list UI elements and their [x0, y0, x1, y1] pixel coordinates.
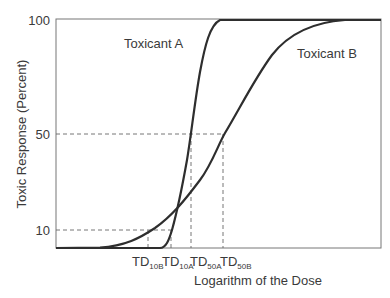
guide-lines	[56, 134, 223, 248]
y-axis-label: Toxic Response (Percent)	[14, 60, 29, 209]
td50b-main: TD	[220, 254, 237, 269]
td50a-label: TD50A	[190, 254, 222, 271]
td50a-main: TD	[190, 254, 207, 269]
y-tick-10: 10	[36, 223, 50, 238]
y-tick-50: 50	[36, 127, 50, 142]
y-tick-100: 100	[28, 13, 50, 28]
x-axis-label: Logarithm of the Dose	[194, 273, 322, 288]
td10b-main: TD	[132, 254, 149, 269]
td10b-label: TD10B	[132, 254, 164, 271]
dose-response-chart: 100 50 10 Toxic Response (Percent) Toxic…	[0, 0, 390, 298]
td50b-label: TD50B	[220, 254, 252, 271]
td10a-main: TD	[162, 254, 179, 269]
toxicant-a-label: Toxicant A	[124, 36, 184, 51]
td50b-sub: 50B	[237, 262, 251, 271]
toxicant-b-label: Toxicant B	[297, 46, 357, 61]
